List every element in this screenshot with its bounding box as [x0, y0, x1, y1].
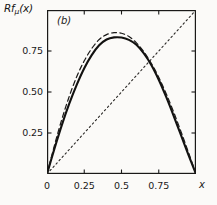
x-tick-label: 0.25	[74, 180, 95, 191]
data-series-line	[47, 37, 196, 174]
x-tick-label: 0.75	[148, 180, 169, 191]
data-series-line	[47, 10, 196, 174]
data-series-group	[47, 10, 196, 174]
x-tick-label: 0.5	[114, 180, 129, 191]
x-tick-label: 0	[44, 180, 50, 191]
chart-canvas	[47, 10, 196, 174]
plot-area	[47, 10, 196, 174]
figure-panel-b: Rfμ(x) (b) 0.75 0.50 0.25 0 0.25 0.5 0.7…	[0, 0, 217, 205]
axis-frame	[48, 11, 196, 174]
x-axis-label: x	[199, 179, 205, 190]
plot-border	[48, 11, 196, 174]
